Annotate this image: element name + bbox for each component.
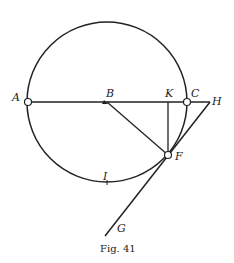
point-a — [25, 99, 32, 106]
label-c: C — [191, 87, 200, 100]
label-h: H — [211, 95, 222, 108]
point-c — [184, 99, 191, 106]
radius-bf — [107, 102, 168, 155]
point-f — [165, 152, 172, 159]
label-i: I — [102, 170, 108, 183]
tangent-line-hg — [105, 102, 210, 236]
label-f: F — [174, 150, 183, 163]
figure-caption: Fig. 41 — [100, 243, 136, 254]
label-b: B — [105, 87, 114, 100]
label-k: K — [164, 87, 174, 100]
label-g: G — [117, 222, 126, 235]
label-a: A — [11, 91, 20, 104]
geometry-diagram: A B K C H F I G Fig. 41 — [0, 0, 234, 263]
